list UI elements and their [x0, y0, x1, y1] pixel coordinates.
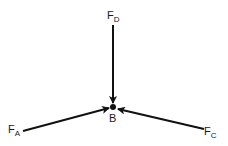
point-b-dot — [110, 104, 116, 110]
force-label-c: FC — [204, 126, 217, 140]
force-subscript: A — [15, 129, 20, 138]
force-subscript: D — [114, 15, 120, 24]
force-arrow-a — [23, 108, 109, 131]
force-label-a: FA — [8, 124, 20, 138]
force-subscript: C — [211, 131, 217, 140]
force-arrow-c — [118, 109, 204, 129]
force-symbol: F — [107, 9, 114, 21]
force-symbol: F — [204, 125, 211, 137]
force-symbol: F — [8, 123, 15, 135]
force-label-d: FD — [107, 10, 120, 24]
point-label-b: B — [109, 113, 116, 124]
